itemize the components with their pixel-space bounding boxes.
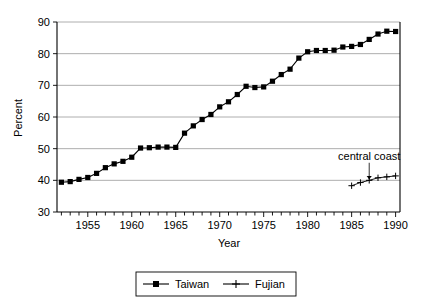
- taiwan-marker-1986: [358, 42, 363, 47]
- taiwan-marker-1971: [226, 99, 231, 104]
- taiwan-marker-1952: [59, 180, 64, 185]
- y-tick-label-50: 50: [38, 143, 50, 155]
- taiwan-marker-1961: [138, 145, 143, 150]
- taiwan-marker-1978: [287, 67, 292, 72]
- taiwan-marker-1975: [261, 84, 266, 89]
- legend-label-taiwan: Taiwan: [175, 278, 209, 290]
- x-tick-label-1970: 1970: [207, 219, 231, 231]
- taiwan-marker-1979: [296, 56, 301, 61]
- taiwan-marker-1960: [129, 155, 134, 160]
- taiwan-marker-1970: [217, 104, 222, 109]
- taiwan-marker-1964: [164, 144, 169, 149]
- taiwan-marker-1954: [76, 177, 81, 182]
- taiwan-marker-1987: [367, 37, 372, 42]
- taiwan-marker-1976: [270, 79, 275, 84]
- chart-container: 19551960196519701975198019851990 3040506…: [0, 0, 432, 308]
- taiwan-marker-1955: [85, 175, 90, 180]
- taiwan-marker-1966: [182, 131, 187, 136]
- taiwan-marker-1984: [340, 44, 345, 49]
- x-axis-title: Year: [218, 237, 241, 249]
- legend-label-fujian: Fujian: [255, 278, 285, 290]
- chart-legend: TaiwanFujian: [136, 272, 296, 296]
- taiwan-marker-1963: [156, 144, 161, 149]
- y-tick-label-70: 70: [38, 79, 50, 91]
- line-chart: 19551960196519701975198019851990 3040506…: [0, 0, 432, 308]
- taiwan-marker-1990: [393, 29, 398, 34]
- y-tick-label-30: 30: [38, 206, 50, 218]
- taiwan-marker-1959: [120, 159, 125, 164]
- taiwan-marker-1988: [375, 31, 380, 36]
- taiwan-marker-1973: [243, 84, 248, 89]
- taiwan-marker-1958: [112, 161, 117, 166]
- taiwan-marker-1968: [200, 117, 205, 122]
- taiwan-marker-1974: [252, 85, 257, 90]
- taiwan-marker-1977: [279, 72, 284, 77]
- x-tick-label-1960: 1960: [120, 219, 144, 231]
- taiwan-marker-1972: [235, 92, 240, 97]
- x-tick-label-1990: 1990: [383, 219, 407, 231]
- taiwan-marker-1981: [314, 48, 319, 53]
- taiwan-marker-1967: [191, 123, 196, 128]
- taiwan-marker-1953: [68, 179, 73, 184]
- x-tick-label-1980: 1980: [295, 219, 319, 231]
- taiwan-marker-1985: [349, 44, 354, 49]
- taiwan-marker-1956: [94, 171, 99, 176]
- legend-marker-square: [153, 281, 159, 287]
- taiwan-marker-1962: [147, 145, 152, 150]
- taiwan-marker-1982: [323, 48, 328, 53]
- x-tick-label-1965: 1965: [163, 219, 187, 231]
- annotation-label-central-coast: central coast: [338, 150, 400, 162]
- taiwan-marker-1969: [208, 112, 213, 117]
- y-axis-title: Percent: [12, 99, 24, 137]
- y-tick-label-80: 80: [38, 48, 50, 60]
- taiwan-marker-1980: [305, 49, 310, 54]
- x-tick-label-1955: 1955: [76, 219, 100, 231]
- y-tick-label-60: 60: [38, 111, 50, 123]
- taiwan-marker-1983: [331, 48, 336, 53]
- taiwan-marker-1965: [173, 145, 178, 150]
- x-tick-label-1975: 1975: [251, 219, 275, 231]
- taiwan-marker-1957: [103, 165, 108, 170]
- taiwan-marker-1989: [384, 29, 389, 34]
- x-tick-label-1985: 1985: [339, 219, 363, 231]
- y-tick-label-90: 90: [38, 16, 50, 28]
- y-tick-label-40: 40: [38, 174, 50, 186]
